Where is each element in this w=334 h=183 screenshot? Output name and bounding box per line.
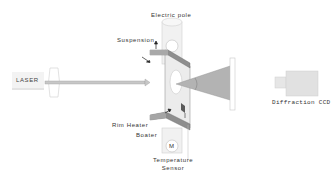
- boat-heater-label: Boater: [136, 132, 157, 139]
- screen-plate: [230, 58, 235, 110]
- diffraction-ccd-camera: [275, 71, 318, 96]
- electric-pole-bottom: [162, 125, 188, 160]
- temperature-sensor-label-line1: Temperature: [153, 157, 193, 164]
- laser-label: LASER: [16, 77, 39, 84]
- diagram-canvas: LASER Electric pole Suspension Rim Heate…: [0, 0, 334, 183]
- suspension-label: Suspension: [117, 37, 154, 44]
- rim-heater-label: Rim Heater: [112, 122, 148, 129]
- electric-pole-label: Electric pole: [151, 12, 191, 19]
- diffraction-ccd-label: Diffraction CCD: [272, 99, 331, 106]
- motor-label: M: [169, 143, 175, 150]
- diagram-graphics: [0, 0, 334, 183]
- temperature-sensor-label-line2: Sensor: [153, 165, 193, 172]
- laser-beam-arrow: [45, 79, 150, 86]
